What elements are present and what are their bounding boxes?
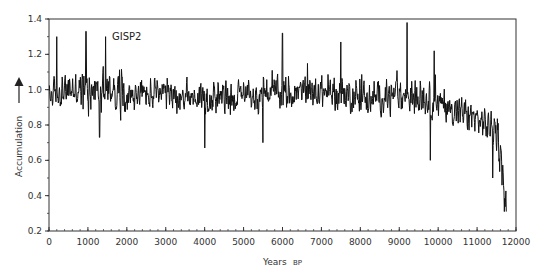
x-tick-label: 1000 [76, 237, 99, 247]
x-tick-label: 3000 [154, 237, 177, 247]
y-tick-label: 0.8 [28, 120, 43, 130]
x-tick-label: 6000 [271, 237, 294, 247]
series-layer [49, 23, 506, 212]
x-axis-title-group: Years BP [262, 257, 302, 267]
y-tick-label: 0.4 [28, 191, 43, 201]
x-axis: 0100020003000400050006000700080009000100… [46, 227, 530, 247]
x-tick-label: 8000 [349, 237, 372, 247]
series-annotation: GISP2 [112, 31, 141, 42]
x-axis-title-suffix: BP [293, 259, 302, 267]
x-tick-label: 4000 [193, 237, 216, 247]
x-tick-label: 7000 [310, 237, 333, 247]
y-tick-label: 1.4 [28, 14, 43, 24]
y-axis-title: Accumulation [14, 116, 24, 177]
x-tick-label: 10000 [424, 237, 453, 247]
x-tick-label: 0 [46, 237, 52, 247]
x-tick-label: 11000 [463, 237, 492, 247]
y-tick-label: 1.0 [28, 85, 43, 95]
x-axis-title: Years [262, 257, 287, 267]
x-tick-label: 9000 [388, 237, 411, 247]
x-tick-label: 12000 [502, 237, 531, 247]
y-tick-label: 0.6 [28, 155, 43, 165]
y-tick-label: 1.2 [28, 49, 42, 59]
y-axis-title-group: Accumulation [14, 77, 24, 177]
y-axis: 0.20.40.60.81.01.21.4 [28, 14, 49, 236]
arrow-up-icon [15, 77, 24, 103]
gisp2-accumulation-chart: 0.20.40.60.81.01.21.4 010002000300040005… [0, 0, 545, 277]
y-tick-label: 0.2 [28, 226, 42, 236]
x-tick-label: 5000 [232, 237, 255, 247]
x-tick-label: 2000 [115, 237, 138, 247]
accumulation-series-line [49, 23, 506, 212]
